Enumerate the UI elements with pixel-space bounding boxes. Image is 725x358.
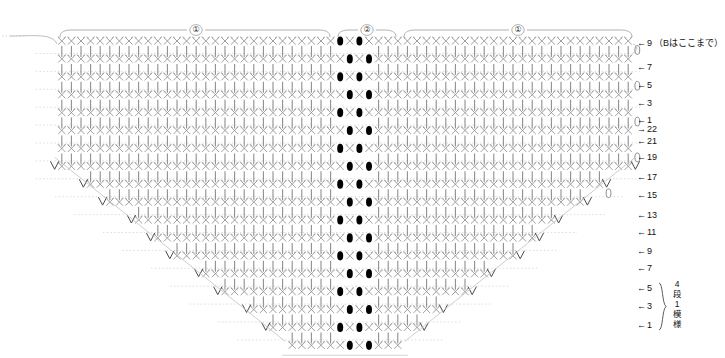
row-label-9: ←15 <box>637 191 657 200</box>
row-label-0: ←9（Bはここまで） <box>637 39 723 48</box>
row-direction-arrow: ← <box>637 80 647 90</box>
row-direction-arrow: ← <box>637 246 647 256</box>
crochet-pattern-chart: ←9（Bはここまで）←7←5←3←1→22←21←19←17←15←13←11←… <box>0 0 725 358</box>
row-label-2: ←5 <box>637 81 652 90</box>
row-direction-arrow: ← <box>637 38 647 48</box>
row-direction-arrow: ← <box>637 172 647 182</box>
row-number: 11 <box>647 227 656 237</box>
repeat-annotation-line-1: 段 <box>669 289 685 299</box>
row-number: 7 <box>647 263 652 273</box>
row-note: （Bはここまで） <box>652 38 723 48</box>
row-label-15: ←3 <box>637 302 652 311</box>
row-label-16: ←1 <box>637 321 652 330</box>
row-label-6: ←21 <box>637 137 657 146</box>
repeat-annotation-line-0: 4 <box>669 279 685 289</box>
row-label-12: ←9 <box>637 247 652 256</box>
row-number: 19 <box>647 152 657 162</box>
row-direction-arrow: ← <box>637 136 647 146</box>
row-number: 3 <box>647 98 652 108</box>
row-number-column: ←9（Bはここまで）←7←5←3←1→22←21←19←17←15←13←11←… <box>0 0 725 358</box>
row-label-13: ←7 <box>637 264 652 273</box>
row-direction-arrow: ← <box>637 320 647 330</box>
row-number: 5 <box>647 80 652 90</box>
row-number: 21 <box>647 136 657 146</box>
row-number: 13 <box>647 210 657 220</box>
row-direction-arrow: ← <box>637 152 647 162</box>
repeat-annotation-line-4: 様 <box>669 319 685 329</box>
repeat-annotation-line-3: 模 <box>669 309 685 319</box>
row-direction-arrow: ← <box>637 62 647 72</box>
row-label-7: ←19 <box>637 153 657 162</box>
row-direction-arrow: ← <box>637 301 647 311</box>
row-label-14: ←5 <box>637 284 652 293</box>
row-number: 5 <box>647 283 652 293</box>
row-direction-arrow: ← <box>637 190 647 200</box>
repeat-annotation: 4段1模様 <box>669 279 685 329</box>
repeat-annotation-line-2: 1 <box>669 299 685 309</box>
bracket-number-right-repeat: ① <box>511 26 525 34</box>
row-label-3: ←3 <box>637 99 652 108</box>
row-label-1: ←7 <box>637 63 652 72</box>
bracket-number-left-repeat: ① <box>189 26 203 34</box>
row-label-5: →22 <box>637 125 657 134</box>
row-direction-arrow: → <box>637 124 647 134</box>
row-number: 3 <box>647 301 652 311</box>
row-direction-arrow: ← <box>637 210 647 220</box>
row-number: 1 <box>647 320 652 330</box>
row-direction-arrow: ← <box>637 263 647 273</box>
row-direction-arrow: ← <box>637 98 647 108</box>
row-direction-arrow: ← <box>637 283 647 293</box>
row-number: 9 <box>647 246 652 256</box>
row-number: 7 <box>647 62 652 72</box>
row-number: 22 <box>647 124 657 134</box>
row-number: 15 <box>647 190 657 200</box>
row-number: 17 <box>647 172 657 182</box>
row-label-11: ←11 <box>637 228 656 237</box>
bracket-number-center-panel: ② <box>360 26 374 34</box>
row-label-8: ←17 <box>637 173 657 182</box>
row-label-10: ←13 <box>637 211 657 220</box>
row-direction-arrow: ← <box>637 227 647 237</box>
